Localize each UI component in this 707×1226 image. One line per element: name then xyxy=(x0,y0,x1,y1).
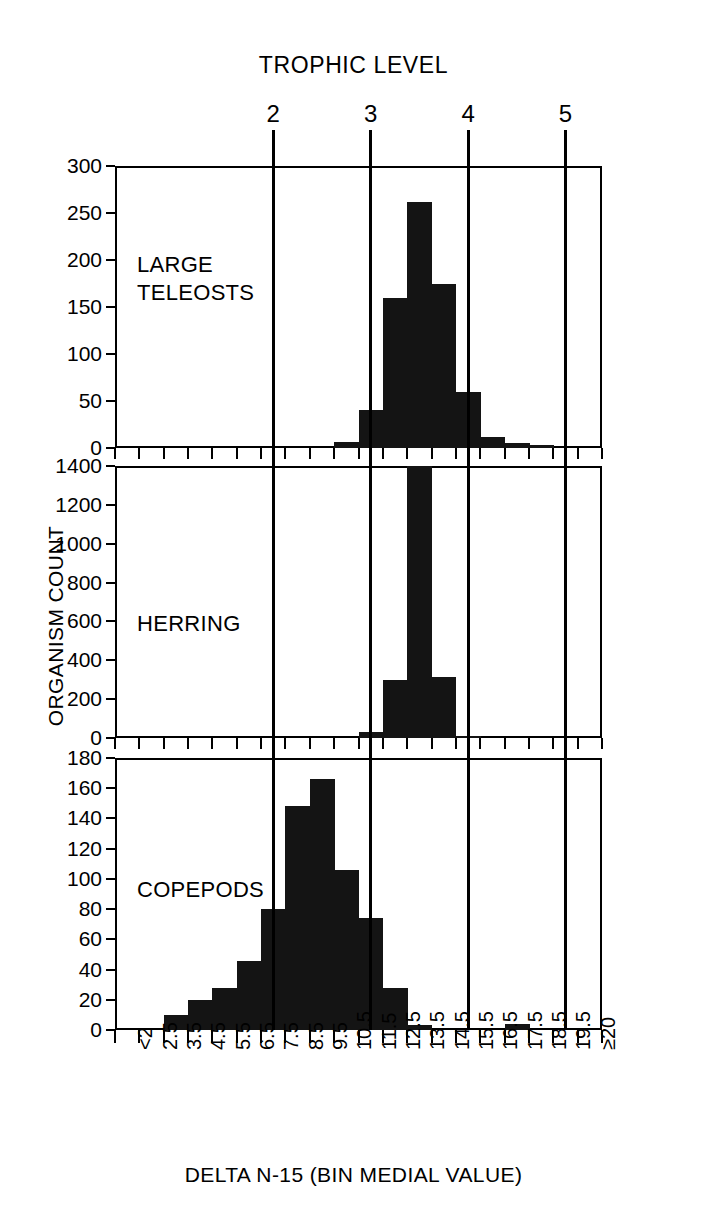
x-axis-tick xyxy=(577,738,579,749)
x-axis-tick xyxy=(211,448,213,459)
x-axis-tick-label: 15.5 xyxy=(475,1011,498,1050)
y-axis-tick-label: 40 xyxy=(79,958,102,982)
x-axis-tick xyxy=(309,738,311,749)
x-axis-tick xyxy=(504,738,506,749)
y-axis-tick xyxy=(106,999,115,1001)
histogram-bar xyxy=(383,680,408,738)
y-axis-tick-label: 80 xyxy=(79,897,102,921)
x-axis-tick xyxy=(479,738,481,749)
y-axis-tick-label: 120 xyxy=(67,837,102,861)
histogram-bar xyxy=(480,437,505,448)
histogram-bar xyxy=(285,806,310,1030)
x-axis-tick xyxy=(382,448,384,459)
x-axis-tick xyxy=(601,448,603,459)
trophic-level-title: TROPHIC LEVEL xyxy=(0,52,707,79)
x-axis-tick-label: 10.5 xyxy=(353,1011,376,1050)
figure-root: TROPHIC LEVEL 2345 LARGETELEOSTS 0501001… xyxy=(0,0,707,1226)
panel-copepods: COPEPODS 020406080100120140160180 xyxy=(115,758,602,1030)
x-axis-tick-label: 4.5 xyxy=(207,1022,230,1050)
x-axis-tick xyxy=(187,448,189,459)
panel-title-large-teleosts: LARGETELEOSTS xyxy=(137,251,254,307)
x-axis-tick xyxy=(601,738,603,749)
bars-herring xyxy=(115,466,602,738)
y-axis-tick xyxy=(106,165,115,167)
y-axis-tick-label: 400 xyxy=(67,648,102,672)
x-axis-tick xyxy=(260,738,262,749)
x-axis-tick-label: 9.5 xyxy=(329,1022,352,1050)
x-axis-tick xyxy=(284,448,286,459)
y-axis-tick-label: 0 xyxy=(90,1018,102,1042)
x-axis-tick xyxy=(163,448,165,459)
x-axis-tick-label: 11.5 xyxy=(378,1013,401,1050)
x-axis-tick xyxy=(552,448,554,459)
histogram-bar xyxy=(334,442,359,448)
histogram-bar xyxy=(432,677,457,738)
x-axis-tick xyxy=(260,448,262,459)
trophic-level-value-2: 2 xyxy=(253,100,293,128)
x-axis-tick-label: 18.5 xyxy=(548,1011,571,1050)
x-axis-tick xyxy=(455,448,457,459)
y-axis-tick xyxy=(106,817,115,819)
x-axis-tick xyxy=(187,738,189,749)
x-axis-tick xyxy=(163,738,165,749)
panel-title-copepods: COPEPODS xyxy=(137,876,264,904)
y-axis-tick-label: 60 xyxy=(79,927,102,951)
y-axis-tick-label: 160 xyxy=(67,776,102,800)
panel-title-herring: HERRING xyxy=(137,610,241,638)
x-axis-tick xyxy=(431,738,433,749)
x-axis-tick xyxy=(406,738,408,749)
y-axis-tick xyxy=(106,787,115,789)
y-axis-tick xyxy=(106,938,115,940)
y-axis-tick-label: 600 xyxy=(67,609,102,633)
x-axis-tick-label: 2.5 xyxy=(159,1022,182,1050)
y-axis-tick-label: 800 xyxy=(67,571,102,595)
x-axis-tick xyxy=(114,738,116,749)
histogram-bar xyxy=(432,284,457,449)
y-axis-tick-label: 50 xyxy=(79,389,102,413)
x-axis-tick xyxy=(333,448,335,459)
x-axis-tick xyxy=(479,448,481,459)
x-axis-tick-label: <2 xyxy=(134,1027,157,1050)
y-axis-tick xyxy=(106,659,115,661)
x-axis-tick-label: 16.5 xyxy=(499,1011,522,1050)
trophic-level-stub-2 xyxy=(272,130,275,166)
x-axis-tick xyxy=(577,448,579,459)
trophic-level-stub-3 xyxy=(369,130,372,166)
panel-large-teleosts: LARGETELEOSTS 050100150200250300 xyxy=(115,166,602,448)
trophic-level-line-2 xyxy=(272,166,275,1030)
y-axis-tick-label: 150 xyxy=(67,295,102,319)
x-axis-tick xyxy=(528,448,530,459)
x-axis-tick xyxy=(382,738,384,749)
trophic-level-stub-5 xyxy=(564,130,567,166)
panel-herring: HERRING 0200400600800100012001400 xyxy=(115,466,602,738)
y-axis-tick xyxy=(106,848,115,850)
x-axis-tick xyxy=(333,738,335,749)
y-axis-tick-label: 250 xyxy=(67,201,102,225)
y-axis-tick-label: 100 xyxy=(67,342,102,366)
x-axis-tick-label: 6.5 xyxy=(256,1022,279,1050)
y-axis-tick xyxy=(106,212,115,214)
x-axis-tick xyxy=(236,448,238,459)
x-axis-tick xyxy=(114,448,116,459)
trophic-level-stub-4 xyxy=(467,130,470,166)
x-axis-tick-label: 7.5 xyxy=(280,1022,303,1050)
x-axis-tick-label: 5.5 xyxy=(232,1022,255,1050)
x-axis-tick xyxy=(211,738,213,749)
histogram-bar xyxy=(529,445,554,448)
x-axis-tick xyxy=(138,738,140,749)
y-axis-title: ORGANISM COUNT xyxy=(44,466,68,786)
y-axis-tick-label: 100 xyxy=(67,867,102,891)
histogram-bar xyxy=(237,961,262,1031)
x-axis-tick-label: 12.5 xyxy=(402,1011,425,1050)
y-axis-tick xyxy=(106,620,115,622)
trophic-level-value-3: 3 xyxy=(351,100,391,128)
trophic-level-line-3 xyxy=(369,166,372,1030)
histogram-bar xyxy=(310,779,335,1030)
x-axis-tick-label: 8.5 xyxy=(305,1022,328,1050)
x-axis-tick-label: 3.5 xyxy=(183,1022,206,1050)
x-axis-tick xyxy=(358,448,360,459)
x-axis-tick xyxy=(309,448,311,459)
histogram-bar xyxy=(383,298,408,448)
y-axis-tick xyxy=(106,465,115,467)
y-axis-tick xyxy=(106,582,115,584)
